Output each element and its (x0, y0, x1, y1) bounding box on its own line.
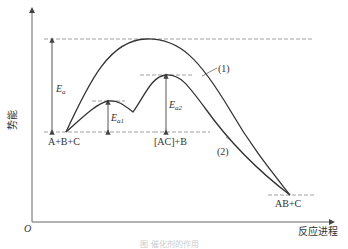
curve-2-label: (2) (217, 146, 229, 158)
curve-1 (66, 39, 290, 195)
curve-2-leader (226, 137, 233, 142)
x-axis-label: 反应进程 (298, 225, 338, 237)
ea2-label: Ea2 (168, 99, 183, 112)
reference-lines (44, 39, 315, 195)
ea1-label: Ea1 (110, 112, 124, 125)
curve-1-label: (1) (218, 63, 230, 75)
origin-label: O (24, 223, 31, 234)
y-axis-label: 势能 (6, 110, 18, 130)
reactants-label: A+B+C (48, 136, 80, 147)
energy-diagram: (1) (2) Ea Ea1 Ea2 A+B+C [AC]+B AB+C 势能 … (0, 0, 348, 249)
curve-2 (66, 75, 290, 195)
products-label: AB+C (275, 198, 302, 209)
ea-label: Ea (55, 83, 66, 96)
intermediate-label: [AC]+B (154, 136, 187, 147)
figure-caption: 图 催化剂的作用 (140, 239, 199, 249)
